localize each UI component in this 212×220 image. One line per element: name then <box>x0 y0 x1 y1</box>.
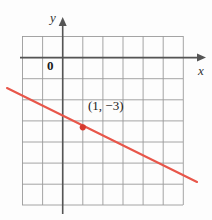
y-axis-label: y <box>50 11 56 24</box>
y-axis-arrowhead <box>59 17 67 26</box>
origin-label: 0 <box>47 59 54 72</box>
plotted-point <box>80 124 86 130</box>
x-axis-arrowhead <box>197 54 206 62</box>
point-coordinate-label: (1, −3) <box>88 99 124 112</box>
x-axis-label: x <box>198 64 204 77</box>
coordinate-plane-figure: y x 0 (1, −3) <box>0 0 212 220</box>
